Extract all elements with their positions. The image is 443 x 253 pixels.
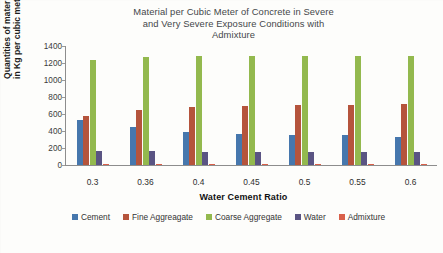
- x-axis-line: [65, 165, 437, 166]
- bar[interactable]: [156, 164, 162, 165]
- bar[interactable]: [368, 164, 374, 165]
- legend-swatch-icon: [72, 214, 78, 220]
- bar[interactable]: [236, 134, 242, 165]
- legend-item[interactable]: Cement: [72, 212, 110, 222]
- bar[interactable]: [143, 57, 149, 165]
- x-axis-tick-labels: 0.30.360.40.450.50.550.6: [0, 176, 443, 192]
- x-axis-tick-0.4: 0.4: [193, 177, 205, 187]
- y-tickmark-1000: [61, 80, 65, 81]
- bar[interactable]: [315, 164, 321, 165]
- bar[interactable]: [414, 152, 420, 165]
- legend-swatch-icon: [295, 214, 301, 220]
- bar[interactable]: [242, 106, 248, 165]
- bar[interactable]: [342, 135, 348, 164]
- bar[interactable]: [302, 56, 308, 165]
- y-axis-tick-800: 800: [48, 92, 62, 101]
- x-axis-tick-0.45: 0.45: [243, 177, 259, 187]
- bar[interactable]: [401, 104, 407, 164]
- legend-label: Coarse Aggregate: [215, 212, 282, 222]
- bar-group: [278, 46, 331, 165]
- bar[interactable]: [149, 151, 155, 164]
- bar[interactable]: [295, 105, 301, 165]
- y-axis-title-line-1: Quantities of material: [2, 0, 12, 94]
- bar[interactable]: [136, 110, 142, 165]
- y-tickmark-0: [61, 165, 65, 166]
- bar[interactable]: [255, 152, 261, 165]
- y-axis-tick-1400: 1400: [44, 41, 62, 50]
- y-tickmark-1200: [61, 63, 65, 64]
- chart-title: Material per Cubic Meter of Concrete in …: [0, 6, 443, 41]
- x-axis-title: Water Cement Ratio: [0, 192, 443, 202]
- y-axis-tick-400: 400: [48, 126, 62, 135]
- x-axis-tick-0.55: 0.55: [349, 177, 365, 187]
- legend-swatch-icon: [123, 214, 129, 220]
- legend-swatch-icon: [339, 214, 345, 220]
- bar[interactable]: [421, 164, 427, 165]
- bar[interactable]: [249, 56, 255, 165]
- legend-item[interactable]: Admixture: [339, 212, 385, 222]
- legend-item[interactable]: Fine Aggreagate: [123, 212, 193, 222]
- y-axis-title-line-2: in Kg per cubic meter: [12, 0, 22, 94]
- legend-label: Fine Aggreagate: [132, 212, 193, 222]
- chart-title-line-1: Material per Cubic Meter of Concrete in …: [70, 6, 397, 18]
- legend-item[interactable]: Coarse Aggregate: [206, 212, 282, 222]
- x-axis-tick-0.5: 0.5: [299, 177, 311, 187]
- bar[interactable]: [361, 152, 367, 165]
- legend-label: Cement: [81, 212, 110, 222]
- chart-title-line-2: and Very Severe Exposure Conditions with: [70, 18, 397, 30]
- bars-area: [66, 46, 437, 165]
- y-axis-tick-200: 200: [48, 143, 62, 152]
- chart-container: Material per Cubic Meter of Concrete in …: [0, 0, 443, 253]
- bar[interactable]: [189, 107, 195, 165]
- bar[interactable]: [395, 137, 401, 165]
- bar[interactable]: [408, 56, 414, 165]
- chart-legend: CementFine AggreagateCoarse AggregateWat…: [0, 212, 443, 222]
- bar[interactable]: [77, 120, 83, 165]
- legend-item[interactable]: Water: [295, 212, 326, 222]
- legend-swatch-icon: [206, 214, 212, 220]
- bar-group: [172, 46, 225, 165]
- y-axis-tick-1000: 1000: [44, 75, 62, 84]
- legend-label: Admixture: [348, 212, 385, 222]
- y-tickmark-1400: [61, 46, 65, 47]
- y-tickmark-400: [61, 131, 65, 132]
- bar[interactable]: [196, 56, 202, 164]
- legend-label: Water: [304, 212, 326, 222]
- bar[interactable]: [209, 164, 215, 165]
- bar[interactable]: [83, 116, 89, 165]
- x-axis-tick-0.3: 0.3: [87, 177, 99, 187]
- x-axis-tick-0.36: 0.36: [137, 177, 153, 187]
- bar[interactable]: [96, 151, 102, 165]
- x-axis-tick-0.6: 0.6: [405, 177, 417, 187]
- bar-group: [66, 46, 119, 165]
- bar[interactable]: [289, 135, 295, 165]
- y-axis-tick-1200: 1200: [44, 58, 62, 67]
- chart-title-line-3: Admixture: [70, 29, 397, 41]
- bar[interactable]: [308, 152, 314, 165]
- bar[interactable]: [348, 105, 354, 165]
- bar-group: [331, 46, 384, 165]
- bar-group: [225, 46, 278, 165]
- bar[interactable]: [130, 127, 136, 164]
- bar-group: [119, 46, 172, 165]
- bar[interactable]: [262, 164, 268, 165]
- y-tickmark-800: [61, 97, 65, 98]
- y-tickmark-600: [61, 114, 65, 115]
- bar[interactable]: [103, 164, 109, 165]
- bar[interactable]: [355, 56, 361, 165]
- bar-group: [384, 46, 437, 165]
- bar[interactable]: [90, 60, 96, 165]
- bar[interactable]: [183, 132, 189, 165]
- y-axis-tick-600: 600: [48, 109, 62, 118]
- bar[interactable]: [202, 152, 208, 165]
- plot-area: Quantities of material in Kg per cubic m…: [0, 44, 443, 176]
- y-tickmark-200: [61, 148, 65, 149]
- y-axis-tick-labels: 0200400600800100012001400: [36, 44, 62, 176]
